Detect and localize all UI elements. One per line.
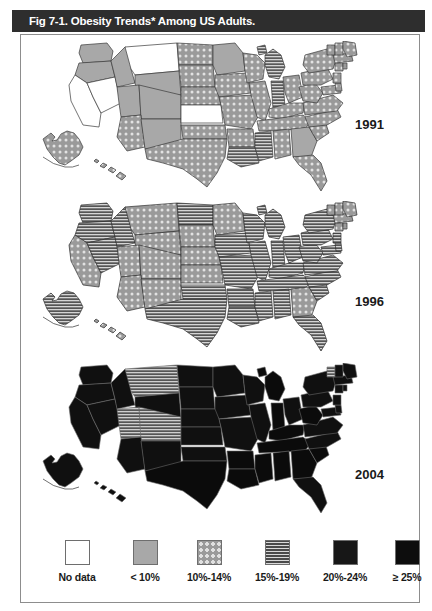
state-NH: [335, 365, 343, 377]
map-panel-1996: [21, 201, 361, 361]
legend-item-15-19: 15%-19%: [243, 540, 311, 583]
gte-25-swatch: [395, 540, 420, 565]
figure-container: Fig 7-1. Obesity Trends* Among US Adults…: [0, 0, 432, 611]
state-MT: [125, 365, 179, 397]
state-CT: [335, 385, 343, 393]
state-KS: [181, 265, 223, 283]
us-map-1996-svg: [21, 201, 361, 361]
figure-content-frame: 1991 1996 2004 No data < 10% 10%-14% 15%…: [20, 34, 420, 603]
state-ND: [177, 43, 213, 65]
state-AR: [227, 451, 255, 469]
state-ND: [177, 365, 213, 387]
state-TX: [145, 299, 227, 347]
state-AK: [43, 291, 83, 325]
state-WA: [79, 365, 113, 385]
state-MN: [213, 43, 245, 75]
state-VT: [327, 45, 335, 55]
state-MT: [125, 43, 179, 75]
no-data-swatch: [65, 540, 90, 565]
state-AK: [43, 131, 83, 165]
state-VT: [327, 367, 335, 377]
state-OK: [181, 285, 227, 299]
state-UT: [117, 407, 141, 439]
state-WA: [79, 43, 113, 63]
state-LA: [227, 147, 259, 167]
10-14-swatch: [197, 540, 222, 565]
state-AZ: [117, 437, 145, 473]
state-WA: [79, 203, 113, 223]
legend-label-gte-25: ≥ 25%: [373, 571, 432, 583]
state-HI: [94, 319, 126, 340]
state-HI: [94, 481, 126, 502]
state-ND: [177, 203, 213, 225]
figure-title: Fig 7-1. Obesity Trends* Among US Adults…: [12, 15, 255, 27]
us-map-2004-svg: [21, 363, 361, 523]
state-LA: [227, 469, 259, 489]
20-24-swatch: [333, 540, 358, 565]
state-SD: [179, 65, 215, 87]
legend-item-10-14: 10%-14%: [175, 540, 243, 583]
state-FL: [293, 477, 327, 513]
state-CT: [335, 63, 343, 71]
state-SD: [179, 387, 215, 409]
state-FL: [293, 315, 327, 351]
state-MN: [213, 365, 245, 397]
state-KS: [181, 427, 223, 445]
state-RI: [343, 223, 347, 229]
state-KS: [181, 105, 223, 123]
state-NE: [181, 409, 221, 427]
state-CT: [335, 223, 343, 231]
map-panel-2004: [21, 363, 361, 523]
state-LA: [227, 307, 259, 327]
legend-label-no-data: No data: [43, 571, 111, 583]
15-19-swatch: [265, 540, 290, 565]
state-UT: [117, 85, 141, 117]
state-MT: [125, 203, 179, 235]
state-NH: [335, 203, 343, 215]
state-AR: [227, 289, 255, 307]
legend-item-lt-10: < 10%: [111, 540, 179, 583]
state-OK: [181, 125, 227, 139]
state-AZ: [117, 275, 145, 311]
legend-label-10-14: 10%-14%: [175, 571, 243, 583]
state-WI: [243, 53, 265, 83]
state-AK: [43, 453, 83, 487]
state-NE: [181, 247, 221, 265]
state-UT: [117, 245, 141, 277]
year-label-2004: 2004: [355, 467, 384, 482]
legend-item-20-24: 20%-24%: [311, 540, 379, 583]
state-AL: [273, 289, 291, 319]
state-MS: [255, 131, 273, 161]
figure-title-bar: Fig 7-1. Obesity Trends* Among US Adults…: [12, 10, 425, 32]
state-VT: [327, 205, 335, 215]
state-FL: [293, 155, 327, 191]
lt-10-swatch: [133, 540, 158, 565]
state-OK: [181, 447, 227, 461]
state-AR: [227, 129, 255, 147]
state-AL: [273, 451, 291, 481]
state-MN: [213, 203, 245, 235]
state-WI: [243, 213, 265, 243]
state-NJ: [333, 73, 341, 83]
state-TX: [145, 139, 227, 187]
us-map-1991-svg: [21, 41, 361, 201]
legend-label-20-24: 20%-24%: [311, 571, 379, 583]
legend: No data < 10% 10%-14% 15%-19% 20%-24% ≥ …: [21, 540, 419, 602]
state-MS: [255, 291, 273, 321]
state-AZ: [117, 115, 145, 151]
legend-item-no-data: No data: [43, 540, 111, 583]
legend-label-lt-10: < 10%: [111, 571, 179, 583]
year-label-1996: 1996: [355, 294, 384, 309]
state-RI: [343, 63, 347, 69]
state-WI: [243, 375, 265, 405]
state-RI: [343, 385, 347, 391]
legend-item-gte-25: ≥ 25%: [373, 540, 432, 583]
state-AL: [273, 129, 291, 159]
state-IA: [215, 395, 251, 419]
state-DE: [335, 243, 342, 251]
map-panel-1991: [21, 41, 361, 201]
state-NE: [181, 87, 221, 105]
state-NJ: [333, 233, 341, 243]
state-TX: [145, 461, 227, 509]
legend-label-15-19: 15%-19%: [243, 571, 311, 583]
